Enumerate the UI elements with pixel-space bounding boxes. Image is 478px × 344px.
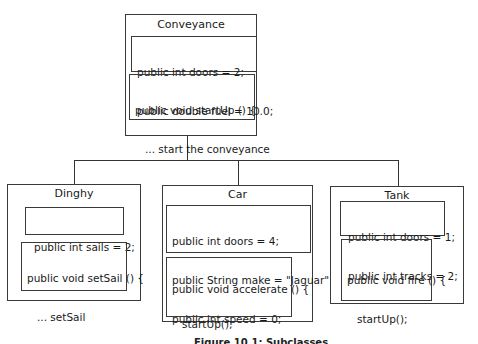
fields-box: public int doors = 4; public String make…: [166, 205, 311, 253]
method-line: ... start the conveyance: [135, 143, 249, 156]
method-line: public void fire () {: [347, 274, 426, 287]
method-line: startUp();: [172, 319, 286, 331]
method-line: public void accelerate () {: [172, 284, 286, 296]
connector-to-dinghy: [74, 160, 75, 184]
method-box: public void fire () { startUp(); fire gu…: [341, 239, 432, 301]
class-box-tank: Tank public int doors = 1; public int tr…: [330, 186, 464, 304]
method-line: public void startUp () {: [135, 104, 249, 117]
figure-caption: Figure 10.1: Subclasses: [194, 337, 328, 344]
class-title: Conveyance: [126, 18, 256, 31]
connector-to-tank: [398, 160, 399, 186]
class-box-dinghy: Dinghy public int sails = 2; public void…: [7, 184, 141, 301]
fields-box: public int doors = 1; public int tracks …: [340, 201, 445, 236]
class-box-car: Car public int doors = 4; public String …: [162, 185, 313, 322]
class-title: Dinghy: [8, 187, 140, 200]
method-line: startUp();: [347, 313, 426, 326]
fields-box: public int doors = 2; public double fuel…: [131, 36, 257, 72]
method-box: public void setSail () { ... setSail }: [21, 242, 127, 291]
method-line: public void setSail () {: [27, 272, 121, 285]
method-line: ... setSail: [27, 311, 121, 324]
method-box: public void startUp () { ... start the c…: [129, 74, 255, 120]
class-box-conveyance: Conveyance public int doors = 2; public …: [125, 14, 257, 136]
method-box: public void accelerate () { startUp(); C…: [166, 257, 292, 317]
field-line: public int doors = 4;: [172, 235, 305, 248]
class-title: Car: [163, 188, 312, 201]
fields-box: public int sails = 2;: [25, 207, 124, 235]
